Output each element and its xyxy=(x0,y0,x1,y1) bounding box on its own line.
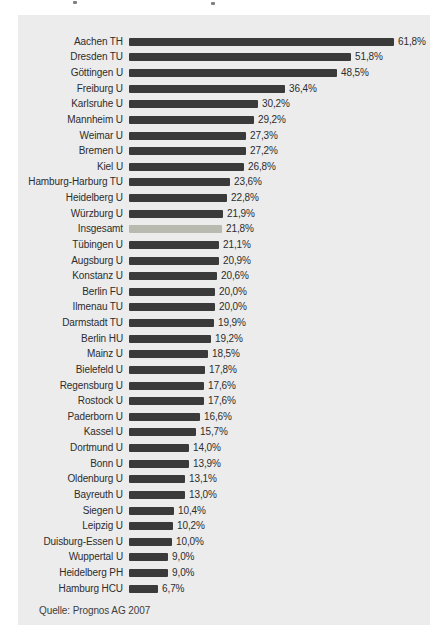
value-label: 23,6% xyxy=(234,177,262,187)
bar-row: Bielefeld U17,8% xyxy=(18,362,430,378)
bar xyxy=(129,132,246,140)
cropped-title-fragment xyxy=(211,2,215,5)
bar-row: Regensburg U17,6% xyxy=(18,378,430,394)
bar-row: Karlsruhe U30,2% xyxy=(18,97,430,113)
bar-row: Heidelberg U22,8% xyxy=(18,190,430,206)
category-label: Aachen TH xyxy=(18,37,129,47)
category-label: Dortmund U xyxy=(18,443,129,453)
category-label: Bremen U xyxy=(18,146,129,156)
category-label: Heidelberg PH xyxy=(18,568,129,578)
bar xyxy=(129,100,258,108)
value-label: 26,8% xyxy=(248,162,276,172)
value-label: 20,0% xyxy=(219,287,247,297)
bar-row: Hamburg-Harburg TU23,6% xyxy=(18,175,430,191)
category-label: Duisburg-Essen U xyxy=(18,537,129,547)
category-label: Bielefeld U xyxy=(18,365,129,375)
category-label: Konstanz U xyxy=(18,271,129,281)
bar xyxy=(129,569,168,577)
value-label: 18,5% xyxy=(212,349,240,359)
bar xyxy=(129,350,208,358)
bar xyxy=(129,272,217,280)
bar-row: Bayreuth U13,0% xyxy=(18,487,430,503)
bar-row: Wuppertal U9,0% xyxy=(18,550,430,566)
bar-row: Heidelberg PH9,0% xyxy=(18,565,430,581)
category-label: Berlin HU xyxy=(18,334,129,344)
bar-chart: Aachen TH61,8%Dresden TU51,8%Göttingen U… xyxy=(18,34,430,597)
category-label: Tübingen U xyxy=(18,240,129,250)
bar-row: Oldenburg U13,1% xyxy=(18,472,430,488)
category-label: Oldenburg U xyxy=(18,474,129,484)
category-label: Mainz U xyxy=(18,349,129,359)
value-label: 19,2% xyxy=(215,334,243,344)
category-label: Kiel U xyxy=(18,162,129,172)
value-label: 9,0% xyxy=(172,552,194,562)
value-label: 21,8% xyxy=(226,224,254,234)
category-label: Darmstadt TU xyxy=(18,318,129,328)
bar-row: Aachen TH61,8% xyxy=(18,34,430,50)
bar xyxy=(129,491,185,499)
bar xyxy=(129,85,285,93)
bar xyxy=(129,53,351,61)
value-label: 48,5% xyxy=(341,68,369,78)
bar xyxy=(129,538,172,546)
bar-row: Würzburg U21,9% xyxy=(18,206,430,222)
value-label: 13,1% xyxy=(189,474,217,484)
value-label: 6,7% xyxy=(162,584,184,594)
bar xyxy=(129,163,244,171)
bar-row: Mannheim U29,2% xyxy=(18,112,430,128)
category-label: Insgesamt xyxy=(18,224,129,234)
value-label: 13,9% xyxy=(193,459,221,469)
bar xyxy=(129,397,204,405)
chart-panel: Aachen TH61,8%Dresden TU51,8%Göttingen U… xyxy=(18,15,430,625)
category-label: Würzburg U xyxy=(18,209,129,219)
bar-row: Duisburg-Essen U10,0% xyxy=(18,534,430,550)
bar-row: Konstanz U20,6% xyxy=(18,268,430,284)
bar xyxy=(129,475,185,483)
category-label: Freiburg U xyxy=(18,84,129,94)
bar xyxy=(129,522,173,530)
bar-row: Freiburg U36,4% xyxy=(18,81,430,97)
bar-row: Ilmenau TU20,0% xyxy=(18,300,430,316)
bar-row: Bremen U27,2% xyxy=(18,143,430,159)
value-label: 16,6% xyxy=(204,412,232,422)
bar xyxy=(129,116,254,124)
bar xyxy=(129,382,204,390)
bar xyxy=(129,428,196,436)
bar-row: Göttingen U48,5% xyxy=(18,65,430,81)
bar xyxy=(129,194,227,202)
value-label: 10,2% xyxy=(177,521,205,531)
bar xyxy=(129,178,230,186)
value-label: 22,8% xyxy=(231,193,259,203)
category-label: Bayreuth U xyxy=(18,490,129,500)
value-label: 21,9% xyxy=(227,209,255,219)
value-label: 10,0% xyxy=(176,537,204,547)
bar-row: Berlin FU20,0% xyxy=(18,284,430,300)
bar xyxy=(129,460,189,468)
value-label: 20,9% xyxy=(223,256,251,266)
bar xyxy=(129,210,223,218)
category-label: Bonn U xyxy=(18,459,129,469)
bar xyxy=(129,303,215,311)
value-label: 51,8% xyxy=(355,52,383,62)
category-label: Weimar U xyxy=(18,131,129,141)
bar xyxy=(129,335,211,343)
category-label: Regensburg U xyxy=(18,381,129,391)
category-label: Rostock U xyxy=(18,396,129,406)
bar-row: Tübingen U21,1% xyxy=(18,237,430,253)
bar-row: Mainz U18,5% xyxy=(18,347,430,363)
bar xyxy=(129,241,219,249)
bar xyxy=(129,257,219,265)
category-label: Siegen U xyxy=(18,506,129,516)
bar-row: Dresden TU51,8% xyxy=(18,50,430,66)
highlight-bar xyxy=(129,225,222,233)
source-note: Quelle: Prognos AG 2007 xyxy=(39,605,150,616)
value-label: 15,7% xyxy=(200,427,228,437)
value-label: 36,4% xyxy=(289,84,317,94)
bar-row: Berlin HU19,2% xyxy=(18,331,430,347)
bar-row: Bonn U13,9% xyxy=(18,456,430,472)
bar xyxy=(129,288,215,296)
bar-row: Siegen U10,4% xyxy=(18,503,430,519)
bar-row: Dortmund U14,0% xyxy=(18,440,430,456)
bar xyxy=(129,147,246,155)
category-label: Leipzig U xyxy=(18,521,129,531)
